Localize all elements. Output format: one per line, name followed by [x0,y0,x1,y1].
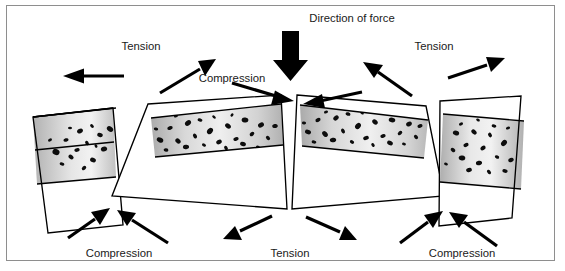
block-center-left [112,90,300,209]
thick-down-arrow-icon [273,31,308,81]
block-far-right [430,96,535,226]
label-compression-bottom-right: Compression [429,247,496,259]
diagram-canvas: Direction of force Tension Compression T… [0,0,565,271]
label-tension-top-right: Tension [415,40,454,52]
block-far-left [20,95,135,233]
label-compression-top-center: Compression [199,72,266,84]
label-tension-bottom-center: Tension [271,247,310,259]
block-center-right [290,90,450,209]
tension-arrow-bottom-right [306,217,357,240]
tension-arrow-bottom-left [223,216,272,240]
tension-arrow-top-right [448,57,505,78]
compression-arrow-bottom-right-a [400,211,443,243]
label-tension-top-left: Tension [122,40,161,52]
label-compression-bottom-left: Compression [86,247,153,259]
compression-arrow-bottom-left-b [117,210,168,243]
tension-arrow-top-left [63,69,124,84]
diagram-figure: Direction of force Tension Compression T… [0,0,565,271]
label-direction-of-force: Direction of force [309,12,394,24]
tension-arrow-diagonal-right [363,62,412,96]
